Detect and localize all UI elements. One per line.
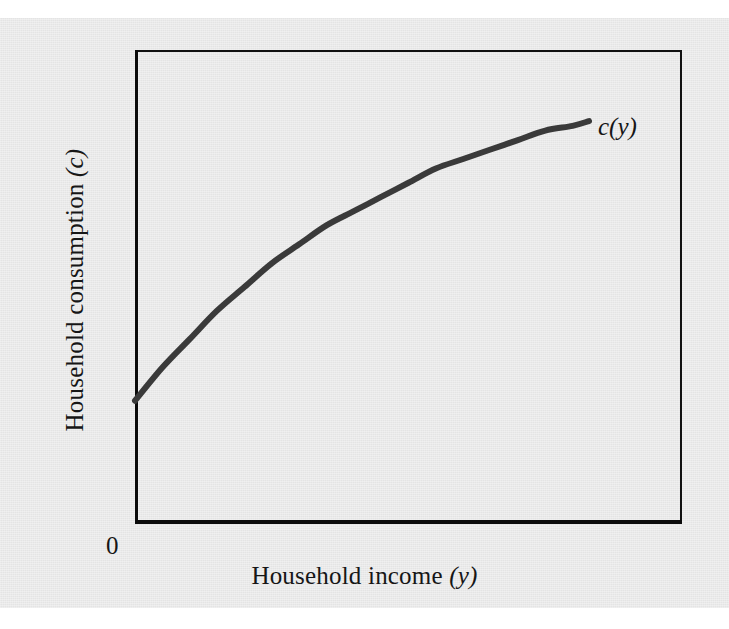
- y-axis-label-variable: (c): [61, 149, 88, 177]
- curve-label: c(y): [598, 114, 637, 139]
- y-axis-label-main: Household consumption: [61, 183, 88, 431]
- origin-label: 0: [106, 533, 119, 558]
- x-axis-label: Household income (y): [0, 563, 729, 588]
- x-axis-label-main: Household income: [251, 562, 442, 589]
- consumption-curve-path: [135, 121, 589, 401]
- y-axis-label: Household consumption (c): [61, 149, 89, 432]
- figure-container: Household consumption (c) Household inco…: [0, 0, 729, 629]
- y-axis-label-wrapper: Household consumption (c): [0, 0, 150, 580]
- x-axis-label-variable: (y): [449, 562, 477, 589]
